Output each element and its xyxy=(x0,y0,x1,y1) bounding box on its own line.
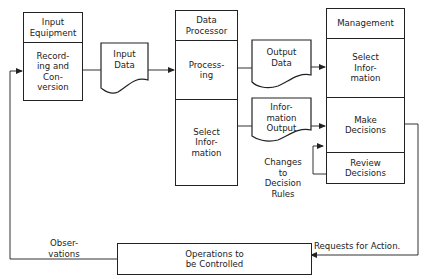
changes-decision-rules-label: Changes to Decision Rules xyxy=(256,157,310,199)
observations-label: Obser- vations xyxy=(44,238,84,259)
information-output-label: Infor- mation Output xyxy=(252,102,311,134)
data-processor-title: Data Processor xyxy=(186,15,227,36)
recording-conversion-label: Record- ing and Con- version xyxy=(37,51,70,93)
make-decisions-label: Make Decisions xyxy=(345,115,386,136)
management-title: Management xyxy=(337,18,394,29)
output-data-label: Output Data xyxy=(252,47,311,68)
processing-label: Process- ing xyxy=(189,60,225,81)
review-decisions-label: Review Decisions xyxy=(345,158,386,179)
requests-for-action-label: Requests for Action. xyxy=(314,241,424,252)
input-data-label: Input Data xyxy=(101,49,148,70)
management-box: Management Select Infor- mation Make Dec… xyxy=(326,8,405,184)
data-processor-box: Data Processor Process- ing Select Infor… xyxy=(175,10,238,186)
operations-label: Operations to be Controlled xyxy=(185,249,244,270)
operations-box: Operations to be Controlled xyxy=(117,243,312,275)
management-select-information-label: Select Infor- mation xyxy=(350,52,380,84)
input-equipment-box: Input Equipment Record- ing and Con- ver… xyxy=(23,12,83,101)
input-equipment-title: Input Equipment xyxy=(30,17,77,38)
select-information-label: Select Infor- mation xyxy=(191,127,221,159)
